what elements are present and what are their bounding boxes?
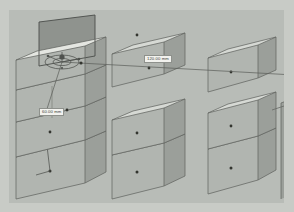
box-center-marker (136, 171, 139, 174)
dimension-label-secondary[interactable]: 60.00 mm (39, 108, 64, 116)
box-center-marker (49, 131, 52, 134)
gizmo-handle-z (61, 67, 63, 69)
box-center-marker (136, 132, 139, 135)
column-right (208, 37, 276, 194)
box-center-marker (136, 34, 139, 37)
dimension-label-main[interactable]: 120.00 mm (144, 55, 172, 63)
frame-top (0, 0, 294, 10)
gizmo-center-handle (59, 54, 64, 59)
scene-geometry[interactable]: .ft{fill:#d6d9d4;} .ff{fill:#b1b5b0;} .f… (0, 0, 294, 212)
gizmo-handle-y (78, 58, 81, 61)
box-center-marker (66, 109, 69, 112)
gizmo-handle-x (47, 55, 50, 58)
scene-svg: .ft{fill:#d6d9d4;} .ff{fill:#b1b5b0;} .f… (0, 0, 294, 212)
dim-endpoint-marker (79, 61, 82, 64)
box-center-marker (230, 71, 233, 74)
frame-right (284, 0, 294, 212)
frame-left (0, 0, 9, 212)
box-center-marker (230, 167, 233, 170)
viewport-3d[interactable]: .ft{fill:#d6d9d4;} .ff{fill:#b1b5b0;} .f… (0, 0, 294, 212)
frame-bottom (0, 203, 294, 212)
box-center-marker (230, 125, 233, 128)
